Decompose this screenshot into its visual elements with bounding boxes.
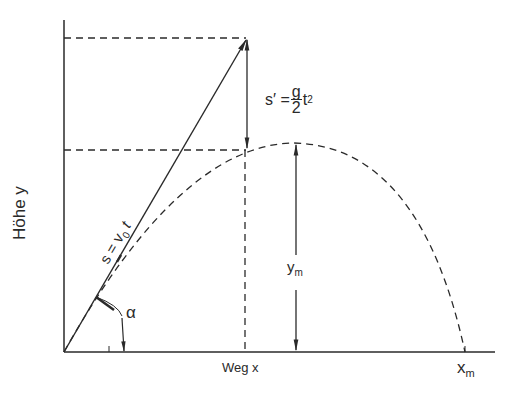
xm-main: x (457, 358, 466, 377)
ym-sub: m (295, 267, 303, 278)
fall-eq-lhs: s′ = (265, 91, 290, 109)
xm-sub: m (466, 367, 475, 379)
projectile-diagram (0, 0, 521, 403)
fall-equation: s′ = g 2 t2 (265, 84, 313, 115)
xm-label: xm (457, 358, 475, 379)
fall-eq-fraction: g 2 (291, 84, 302, 115)
ym-label: ym (287, 258, 303, 278)
fall-eq-exp: 2 (307, 94, 313, 105)
angle-label: α (126, 303, 136, 323)
fall-eq-num: g (291, 84, 302, 100)
y-axis-label: Höhe y (10, 186, 30, 240)
fall-eq-den: 2 (292, 100, 301, 115)
x-axis-label: Weg x (222, 360, 259, 375)
ym-main: y (287, 258, 295, 275)
